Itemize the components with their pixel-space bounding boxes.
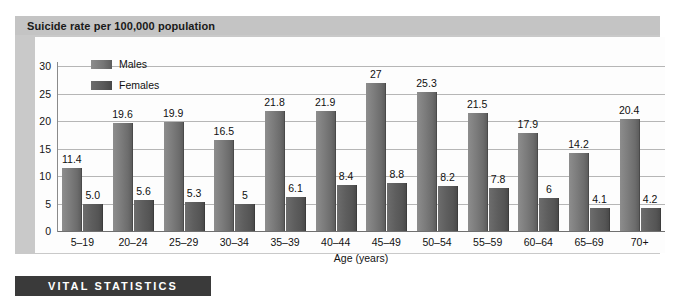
bar-females xyxy=(337,185,357,231)
legend-label-females: Females xyxy=(119,79,159,91)
bar-males xyxy=(468,113,488,231)
bar-females xyxy=(641,208,661,231)
bar-value-label: 21.8 xyxy=(256,96,293,108)
bar-value-label: 5 xyxy=(226,189,263,201)
y-axis-line xyxy=(57,62,58,232)
x-axis-category-label: 60–64 xyxy=(513,236,564,248)
vital-statistics-figure: Suicide rate per 100,000 population 0510… xyxy=(0,0,675,298)
bar-value-label: 11.4 xyxy=(53,153,90,165)
y-axis-tick-label: 25 xyxy=(5,88,51,100)
bar-value-label: 17.9 xyxy=(509,118,546,130)
bar-value-label: 8.4 xyxy=(328,170,365,182)
bar-value-label: 14.2 xyxy=(560,138,597,150)
bar-females xyxy=(438,186,458,231)
bar-females xyxy=(134,200,154,231)
bar-value-label: 5.6 xyxy=(125,185,162,197)
bar-males xyxy=(417,92,437,231)
legend-swatch-females-icon xyxy=(91,81,112,90)
y-axis-tick-label: 20 xyxy=(5,115,51,127)
x-axis-category-label: 30–34 xyxy=(209,236,260,248)
legend-item-males: Males xyxy=(91,58,147,70)
bar-males xyxy=(113,123,133,231)
bar-females xyxy=(489,188,509,231)
x-axis-category-label: 25–29 xyxy=(158,236,209,248)
bar-males xyxy=(366,83,386,232)
x-axis-title: Age (years) xyxy=(57,252,665,264)
x-axis-category-label: 50–54 xyxy=(412,236,463,248)
bar-males xyxy=(164,122,184,231)
x-axis-category-label: 55–59 xyxy=(462,236,513,248)
bar-value-label: 16.5 xyxy=(205,125,242,137)
bar-value-label: 19.9 xyxy=(155,107,192,119)
bar-value-label: 7.8 xyxy=(480,173,517,185)
bar-females xyxy=(235,204,255,232)
bar-females xyxy=(185,202,205,231)
x-axis-category-label: 35–39 xyxy=(260,236,311,248)
bar-females xyxy=(590,208,610,231)
x-axis-category-label: 5–19 xyxy=(57,236,108,248)
bar-value-label: 20.4 xyxy=(611,104,648,116)
y-axis-tick-label: 0 xyxy=(5,225,51,237)
bar-females xyxy=(286,197,306,231)
gridline xyxy=(57,94,665,95)
bar-value-label: 19.6 xyxy=(104,108,141,120)
bar-value-label: 6 xyxy=(530,183,567,195)
legend-label-males: Males xyxy=(119,58,147,70)
bar-value-label: 21.5 xyxy=(459,98,496,110)
x-axis-category-label: 65–69 xyxy=(564,236,615,248)
bar-value-label: 4.1 xyxy=(581,193,618,205)
y-axis-tick-label: 5 xyxy=(5,198,51,210)
bar-value-label: 5.3 xyxy=(176,187,213,199)
bar-value-label: 8.8 xyxy=(378,168,415,180)
chart-title: Suicide rate per 100,000 population xyxy=(27,20,215,32)
bar-value-label: 25.3 xyxy=(408,77,445,89)
bar-males xyxy=(214,140,234,231)
chart-title-band: Suicide rate per 100,000 population xyxy=(15,16,660,35)
y-axis-tick-label: 10 xyxy=(5,170,51,182)
gridline xyxy=(57,121,665,122)
bar-females xyxy=(387,183,407,231)
y-axis-tick-label: 30 xyxy=(5,60,51,72)
y-axis-tick-label: 15 xyxy=(5,143,51,155)
bar-value-label: 6.1 xyxy=(277,182,314,194)
bar-value-label: 21.9 xyxy=(307,96,344,108)
x-axis-baseline xyxy=(57,231,665,232)
x-axis-category-label: 45–49 xyxy=(361,236,412,248)
legend-swatch-males-icon xyxy=(91,60,112,69)
vital-statistics-label: VITAL STATISTICS xyxy=(48,280,178,292)
bar-value-label: 8.2 xyxy=(429,171,466,183)
vital-statistics-banner: VITAL STATISTICS xyxy=(15,276,211,296)
bar-value-label: 27 xyxy=(357,68,394,80)
x-axis-category-label: 70+ xyxy=(614,236,665,248)
bar-females xyxy=(83,204,103,232)
bar-females xyxy=(539,198,559,231)
bar-value-label: 4.2 xyxy=(632,193,669,205)
bar-males xyxy=(265,111,285,231)
bar-males xyxy=(569,153,589,231)
bar-males xyxy=(620,119,640,231)
x-axis-category-label: 40–44 xyxy=(310,236,361,248)
legend-item-females: Females xyxy=(91,79,159,91)
x-axis-category-label: 20–24 xyxy=(108,236,159,248)
bar-males xyxy=(518,133,538,231)
bar-value-label: 5.0 xyxy=(74,189,111,201)
